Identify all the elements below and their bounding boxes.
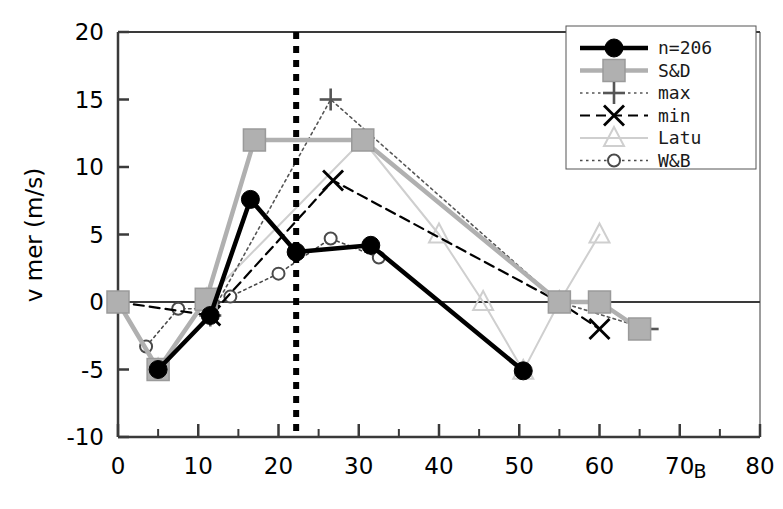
series-min [108, 171, 610, 340]
y-tick-label: 20 [75, 19, 104, 45]
series-n-206 [149, 190, 532, 379]
data-point-cross [590, 319, 610, 339]
y-tick-label: 5 [89, 222, 104, 248]
legend-label: n=206 [658, 37, 712, 58]
vmer-vs-b-line-chart: -10-505101520 01020304050607080 v mer (m… [0, 0, 783, 509]
x-axis-tick-labels: 01020304050607080 [111, 453, 775, 479]
data-point-filled-circle [201, 307, 219, 325]
x-axis-title: B [693, 460, 706, 482]
x-tick-label: 30 [344, 453, 373, 479]
y-tick-label: 0 [89, 289, 104, 315]
data-point-cross [323, 171, 343, 191]
x-tick-label: 40 [424, 453, 453, 479]
data-point-open-circle [273, 268, 285, 280]
data-point-filled-circle [362, 236, 380, 254]
data-point-filled-circle [514, 362, 532, 380]
x-tick-label: 10 [184, 453, 213, 479]
y-tick-label: 10 [75, 154, 104, 180]
data-point-open-circle [608, 155, 620, 167]
legend-label: min [658, 105, 691, 126]
data-point-open-circle [172, 303, 184, 315]
x-axis-ticks [118, 424, 760, 437]
legend-label: max [658, 82, 691, 103]
data-point-filled-circle [605, 39, 623, 57]
series-line [146, 239, 379, 347]
x-tick-label: 60 [585, 453, 614, 479]
x-tick-label: 0 [111, 453, 126, 479]
y-tick-label: 15 [75, 87, 104, 113]
legend-label: Latu [658, 127, 701, 148]
legend-label: W&B [658, 150, 691, 171]
x-tick-label: 20 [264, 453, 293, 479]
data-point-filled-circle [241, 190, 259, 208]
data-point-filled-square [107, 291, 129, 313]
data-point-filled-square [589, 291, 611, 313]
data-point-filled-circle [149, 361, 167, 379]
y-tick-label: -10 [66, 424, 104, 450]
chart-legend: n=206S&DmaxminLatuW&B [566, 26, 756, 171]
y-axis-title: v mer (m/s) [21, 168, 47, 302]
series-w-b [140, 233, 385, 353]
legend-label: S&D [658, 60, 691, 81]
data-point-plus [320, 89, 342, 111]
data-point-open-circle [325, 233, 337, 245]
data-point-filled-square [243, 129, 265, 151]
data-point-filled-square [548, 291, 570, 313]
y-axis-ticks [118, 32, 129, 437]
chart-root: -10-505101520 01020304050607080 v mer (m… [0, 0, 783, 509]
data-point-filled-square [603, 60, 625, 82]
x-tick-label: 70 [665, 453, 694, 479]
data-point-open-triangle [590, 224, 610, 243]
series-line [118, 181, 600, 330]
x-tick-label: 50 [505, 453, 534, 479]
y-axis-tick-labels: -10-505101520 [66, 19, 104, 450]
y-tick-label: -5 [81, 357, 104, 383]
x-tick-label: 80 [745, 453, 774, 479]
data-point-filled-square [352, 129, 374, 151]
data-point-filled-square [629, 318, 651, 340]
